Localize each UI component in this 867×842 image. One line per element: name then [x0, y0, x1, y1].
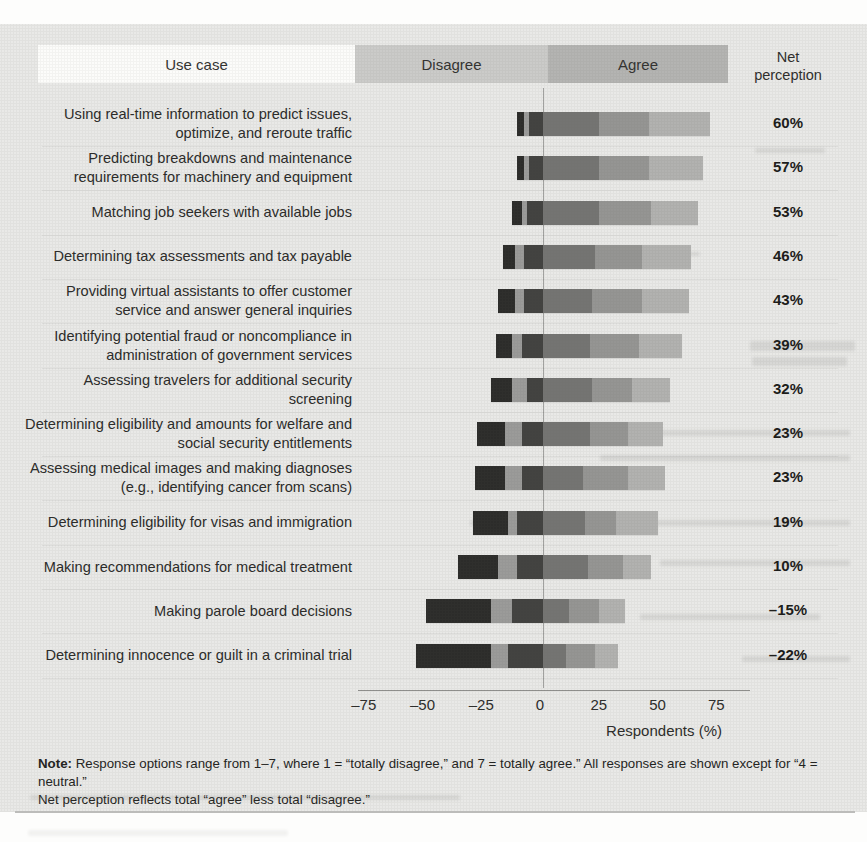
segment-agree_5 [543, 466, 583, 490]
x-tick-label: 25 [569, 696, 629, 713]
net-perception-value: 46% [748, 247, 828, 264]
segment-agree_7 [599, 599, 625, 623]
segment-disagree_1 [475, 466, 506, 490]
header-net-perception: Net perception [748, 48, 828, 84]
response-bar [498, 289, 688, 313]
net-perception-value: 39% [748, 336, 828, 353]
segment-agree_7 [642, 245, 691, 269]
segment-disagree_3 [529, 156, 543, 180]
footnote-note-label: Note: [38, 756, 72, 771]
segment-disagree_1 [517, 112, 524, 136]
segment-disagree_1 [477, 422, 505, 446]
use-case-label: Determining tax assessments and tax paya… [20, 233, 352, 281]
segment-agree_6 [590, 422, 628, 446]
segment-agree_6 [590, 334, 639, 358]
net-perception-value: 19% [748, 513, 828, 530]
segment-disagree_3 [522, 466, 543, 490]
segment-disagree_1 [426, 599, 492, 623]
segment-agree_6 [588, 555, 623, 579]
segment-agree_7 [623, 555, 651, 579]
use-case-label: Determining eligibility for visas and im… [20, 499, 352, 547]
net-perception-value: 32% [748, 380, 828, 397]
segment-agree_6 [585, 511, 616, 535]
net-perception-value: 23% [748, 424, 828, 441]
response-bar [416, 644, 618, 668]
response-bar [426, 599, 626, 623]
segment-disagree_3 [527, 201, 543, 225]
segment-disagree_1 [517, 156, 524, 180]
page-divider-rule [15, 811, 855, 813]
segment-agree_5 [543, 422, 590, 446]
net-perception-value: 57% [748, 158, 828, 175]
use-case-label: Using real-time information to predict i… [20, 100, 352, 148]
response-bar [473, 511, 659, 535]
response-bar [475, 466, 665, 490]
segment-disagree_1 [491, 378, 512, 402]
bleed-through-artifact [755, 148, 825, 153]
segment-disagree_3 [512, 599, 543, 623]
segment-disagree_3 [524, 245, 543, 269]
segment-disagree_2 [491, 644, 507, 668]
use-case-label: Assessing medical images and making diag… [20, 454, 352, 502]
bleed-through-artifact [28, 830, 288, 836]
x-tick-label: –50 [393, 696, 453, 713]
response-bar [503, 245, 691, 269]
x-tick-label: 75 [686, 696, 746, 713]
segment-disagree_3 [522, 422, 543, 446]
segment-disagree_2 [498, 555, 517, 579]
header-disagree-band: Disagree [355, 45, 548, 83]
use-case-label: Determining eligibility and amounts for … [20, 410, 352, 458]
segment-disagree_1 [496, 334, 512, 358]
use-case-label: Making recommendations for medical treat… [20, 543, 352, 591]
x-tick-label: 0 [510, 696, 570, 713]
segment-agree_5 [543, 112, 599, 136]
segment-disagree_1 [473, 511, 508, 535]
x-axis-line [358, 690, 750, 691]
segment-agree_5 [543, 644, 567, 668]
response-bar [477, 422, 663, 446]
segment-agree_6 [599, 112, 648, 136]
segment-agree_7 [628, 422, 663, 446]
segment-disagree_3 [508, 644, 543, 668]
use-case-label: Making parole board decisions [20, 587, 352, 635]
segment-agree_5 [543, 156, 599, 180]
segment-disagree_2 [512, 378, 526, 402]
segment-disagree_3 [522, 334, 543, 358]
segment-agree_5 [543, 555, 588, 579]
segment-agree_7 [595, 644, 619, 668]
use-case-label: Assessing travelers for additional secur… [20, 366, 352, 414]
segment-agree_7 [632, 378, 670, 402]
segment-disagree_2 [505, 422, 521, 446]
segment-disagree_1 [503, 245, 515, 269]
segment-agree_6 [566, 644, 594, 668]
segment-agree_7 [651, 201, 698, 225]
use-case-label: Providing virtual assistants to offer cu… [20, 277, 352, 325]
use-case-label: Matching job seekers with available jobs [20, 189, 352, 237]
segment-agree_6 [592, 289, 641, 313]
segment-agree_6 [595, 245, 642, 269]
bleed-through-artifact [752, 357, 847, 366]
header-use-case: Use case [38, 45, 355, 83]
segment-disagree_2 [508, 511, 517, 535]
response-bar [496, 334, 682, 358]
response-bar [458, 555, 651, 579]
response-bar [491, 378, 670, 402]
segment-agree_5 [543, 334, 590, 358]
segment-disagree_1 [458, 555, 498, 579]
footnote-line-1: Note: Response options range from 1–7, w… [38, 756, 817, 789]
segment-agree_7 [649, 112, 710, 136]
segment-disagree_1 [416, 644, 491, 668]
response-bar [517, 156, 703, 180]
segment-disagree_2 [512, 334, 521, 358]
segment-agree_5 [543, 599, 569, 623]
net-perception-value: 23% [748, 468, 828, 485]
segment-disagree_2 [505, 466, 521, 490]
segment-agree_5 [543, 289, 592, 313]
bleed-through-artifact [30, 795, 460, 800]
segment-disagree_1 [512, 201, 521, 225]
segment-agree_7 [628, 466, 666, 490]
x-axis-title: Respondents (%) [500, 722, 722, 739]
footnote: Note: Response options range from 1–7, w… [38, 755, 840, 809]
scanned-book-page: Use case Disagree Agree Net perception –… [0, 0, 867, 842]
segment-agree_7 [649, 156, 703, 180]
